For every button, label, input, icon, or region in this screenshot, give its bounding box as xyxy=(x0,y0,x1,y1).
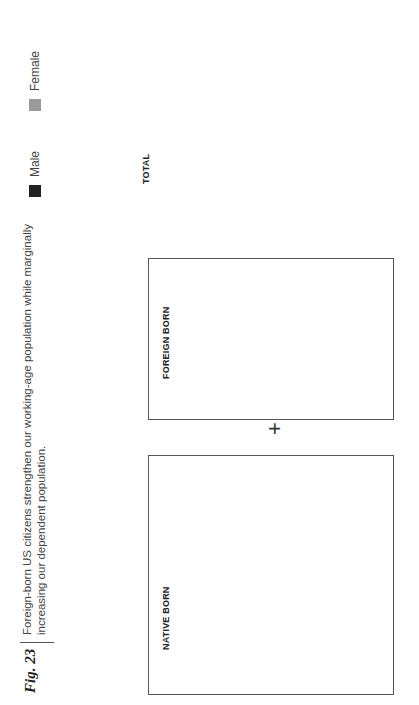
total-panel: TOTAL xyxy=(148,35,394,235)
legend: Male Female xyxy=(28,51,42,197)
legend-male-label: Male xyxy=(28,151,42,177)
native-born-panel: NATIVE BORN xyxy=(148,455,394,695)
figure-number: Fig. 23 xyxy=(22,649,39,693)
panel-title: FOREIGN BORN xyxy=(161,307,171,379)
plus-operator: + xyxy=(262,422,288,435)
female-swatch xyxy=(29,99,41,111)
panel-title: NATIVE BORN xyxy=(161,586,171,650)
figure-page: Fig. 23 Foreign-born US citizens strengt… xyxy=(0,0,419,705)
caption-divider xyxy=(20,642,54,643)
foreign-born-panel: FOREIGN BORN xyxy=(148,258,394,420)
male-swatch xyxy=(29,185,41,197)
legend-female-label: Female xyxy=(28,51,42,91)
panel-title: TOTAL xyxy=(141,154,151,184)
figure-caption: Foreign-born US citizens strengthen our … xyxy=(20,215,48,635)
